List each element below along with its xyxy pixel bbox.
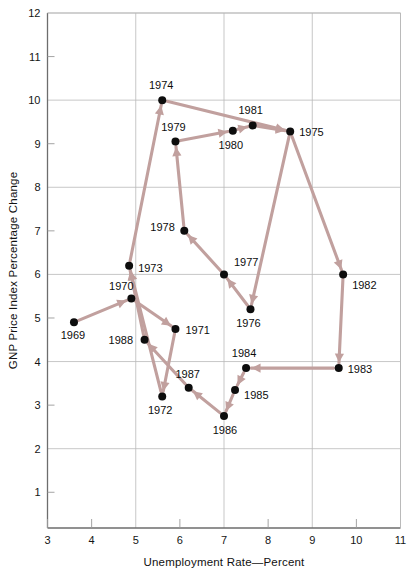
segment-line [292,136,341,270]
data-point-label: 1988 [109,334,133,346]
data-point-label: 1987 [175,368,199,380]
trajectory-segment [251,363,334,372]
x-tick-label: 6 [177,534,183,546]
x-tick-label: 8 [265,534,271,546]
x-tick-label: 3 [44,534,50,546]
y-tick-label: 11 [29,51,40,63]
data-point-label: 1978 [150,221,174,233]
data-point-label: 1973 [138,262,162,274]
y-tick-label: 7 [34,225,40,237]
x-tick-label: 11 [395,534,406,546]
segment-arrowhead [172,147,181,156]
trajectory-segment [188,235,221,271]
data-point[interactable] [229,127,237,135]
y-tick-label: 4 [34,356,40,368]
segment-line [252,136,290,304]
data-point[interactable] [286,128,294,136]
x-tick-label: 5 [133,534,139,546]
data-point[interactable] [185,384,193,392]
data-point[interactable] [339,270,347,278]
segment-line [176,147,184,226]
data-point-label: 1976 [236,317,260,329]
x-tick-label: 9 [309,534,315,546]
data-point-label: 1980 [219,139,243,151]
data-point[interactable] [180,227,188,235]
data-point-label: 1985 [244,389,268,401]
data-point-label: 1970 [109,280,133,292]
data-point-label: 1979 [161,121,185,133]
phillips-curve-scatter: 12345678910111234567891011Unemployment R… [0,0,413,577]
data-point-label: 1986 [213,424,237,436]
y-tick-label: 3 [34,399,40,411]
axis-layer: 12345678910111234567891011Unemployment R… [7,7,406,568]
segment-line [339,279,343,363]
segment-arrowhead [252,363,261,372]
data-point[interactable] [158,96,166,104]
trajectory-segment [292,136,342,270]
chart-canvas: 12345678910111234567891011Unemployment R… [0,0,413,577]
trajectory-segment [237,125,247,134]
y-tick-label: 8 [34,181,40,193]
data-point[interactable] [141,336,149,344]
data-point-label: 1982 [352,279,376,291]
data-point-label: 1981 [238,104,262,116]
data-point-label: 1977 [234,256,258,268]
trajectory-segment [172,147,183,226]
chart-figure: 12345678910111234567891011Unemployment R… [0,0,413,577]
x-tick-label: 4 [89,534,95,546]
data-point-label: 1972 [148,404,172,416]
data-point[interactable] [171,138,179,146]
data-point[interactable] [231,386,239,394]
data-point[interactable] [335,364,343,372]
data-point[interactable] [242,364,250,372]
trajectory-segment [130,105,164,261]
y-tick-label: 2 [34,443,40,455]
trajectory-segment [193,391,221,413]
data-point[interactable] [220,270,228,278]
trajectory-segment [249,136,289,304]
data-point[interactable] [220,412,228,420]
y-axis-title: GNP Price Index Percentage Change [7,172,19,370]
data-point[interactable] [246,305,254,313]
data-point[interactable] [249,121,257,129]
data-point-label: 1984 [232,347,256,359]
trajectory-segment [237,373,245,386]
segment-line [130,105,161,261]
x-tick-label: 10 [350,534,362,546]
y-tick-label: 9 [34,138,40,150]
y-tick-label: 5 [34,312,40,324]
y-tick-label: 12 [28,7,40,19]
data-point[interactable] [158,392,166,400]
data-point[interactable] [125,262,133,270]
data-point[interactable] [171,325,179,333]
x-tick-label: 7 [221,534,227,546]
x-axis-title: Unemployment Rate—Percent [144,556,306,568]
data-point-label: 1969 [61,329,85,341]
trajectory-segment [225,394,233,411]
y-tick-label: 6 [34,268,40,280]
path-layer [79,101,344,413]
trajectory-segment [227,278,247,305]
trajectory-segment [79,300,127,321]
data-point-label: 1975 [299,126,323,138]
y-tick-label: 1 [34,486,40,498]
data-point-label: 1971 [185,324,209,336]
data-point[interactable] [70,318,78,326]
trajectory-segment [335,279,344,363]
data-point-label: 1983 [348,363,372,375]
data-point[interactable] [127,294,135,302]
data-point-label: 1974 [149,79,173,91]
y-tick-label: 10 [28,94,40,106]
